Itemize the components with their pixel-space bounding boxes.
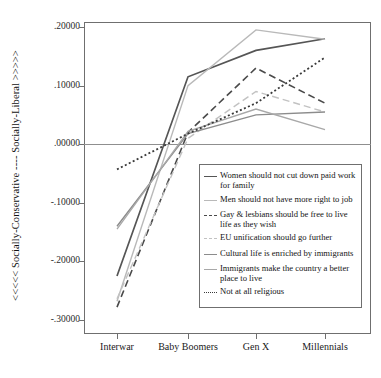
legend-item-label: Women should not cut down paid work for … — [220, 170, 356, 190]
x-axis-tick-mark — [325, 334, 326, 339]
legend-item: Not at all religious — [204, 286, 356, 298]
chart-legend: Women should not cut down paid work for … — [199, 164, 362, 308]
y-axis-tick-label: .10000 — [0, 80, 80, 90]
legend-line-swatch-icon — [204, 233, 217, 244]
legend-line-swatch-icon — [204, 171, 217, 182]
legend-item: EU unification should go further — [204, 232, 356, 244]
y-axis-tick-label: .20000 — [0, 21, 80, 31]
legend-line-swatch-icon — [204, 195, 217, 206]
y-axis-tick-label: -.20000 — [0, 255, 80, 265]
x-axis-tick-mark — [188, 334, 189, 339]
legend-line-swatch-icon — [204, 287, 217, 298]
y-axis-tick-label: .00000 — [0, 138, 80, 148]
y-axis-tick-label: -.30000 — [0, 314, 80, 324]
legend-item: Cultural life is enriched by immigrants — [204, 248, 356, 260]
legend-line-swatch-icon — [204, 264, 217, 275]
legend-item: Men should not have more right to job — [204, 194, 356, 206]
legend-item-label: Men should not have more right to job — [220, 194, 352, 204]
legend-item: Women should not cut down paid work for … — [204, 170, 356, 190]
legend-line-swatch-icon — [204, 249, 217, 260]
legend-item-label: Cultural life is enriched by immigrants — [220, 248, 353, 258]
legend-line-swatch-icon — [204, 210, 217, 221]
y-axis-title: <<<<< Socially-Conservative ---- Sociall… — [10, 11, 21, 341]
legend-item-label: Not at all religious — [220, 286, 284, 296]
legend-item-label: EU unification should go further — [220, 232, 332, 242]
legend-item: Gay & lesbians should be free to live li… — [204, 209, 356, 229]
chart-figure: <<<<< Socially-Conservative ---- Sociall… — [0, 0, 381, 378]
x-axis-tick-mark — [117, 334, 118, 339]
x-axis-tick-mark — [256, 334, 257, 339]
legend-item: Immigrants make the country a better pla… — [204, 263, 356, 283]
x-axis-tick-label: Millennials — [275, 341, 375, 352]
y-axis-tick-label: -.10000 — [0, 197, 80, 207]
zero-reference-line — [84, 144, 371, 145]
legend-item-label: Gay & lesbians should be free to live li… — [220, 209, 356, 229]
legend-item-label: Immigrants make the country a better pla… — [220, 263, 356, 283]
